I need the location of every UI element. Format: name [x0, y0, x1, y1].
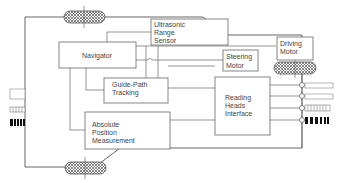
reading-heads-label: Reading Heads Interface — [225, 94, 252, 118]
driving-motor-label: Driving Motor — [280, 40, 302, 56]
ultrasonic-label: Ultrasonic Range Sensor — [154, 21, 185, 45]
wheel-drive — [274, 58, 316, 78]
absolute-position-label: Absolute Position Measurement — [92, 121, 135, 145]
right-guide-markers — [305, 83, 333, 124]
navigator-label: Navigator — [82, 52, 112, 60]
wheel-top — [64, 6, 105, 28]
guide-path-label: Guide-Path Tracking — [112, 81, 147, 97]
steering-motor-label: Steering Motor — [226, 52, 252, 70]
left-guide-markers — [10, 89, 25, 126]
wheel-bottom — [65, 157, 106, 179]
